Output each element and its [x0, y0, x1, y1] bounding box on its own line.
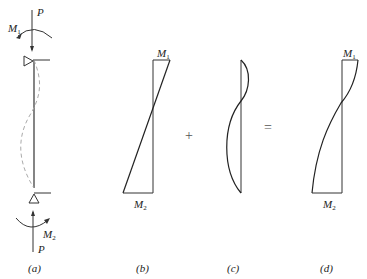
label-m1-d: M1: [342, 47, 356, 61]
moment-line-b: [123, 60, 170, 193]
moment-curve-d: [312, 60, 358, 193]
moment-label-top: M1: [7, 22, 21, 36]
label-m1-b: M1: [156, 47, 170, 61]
load-arrowhead-top: [30, 46, 34, 52]
caption-a: (a): [28, 262, 41, 275]
panel-b: M1 M2 (b): [123, 47, 170, 275]
load-label-bottom: P: [37, 243, 45, 255]
label-m2-b: M2: [133, 198, 147, 212]
plus-operator: +: [185, 128, 193, 143]
moment-arc-top: [18, 29, 52, 38]
pin-support-bottom: [29, 194, 39, 203]
moment-arrowhead-bottom: [44, 218, 50, 224]
load-label-top: P: [36, 6, 44, 18]
caption-d: (d): [320, 262, 333, 275]
moment-arc-bottom: [16, 218, 48, 227]
moment-superposition-diagram: P M1 P M2 (a) M1 M2 (b) +: [0, 0, 367, 279]
panel-c: (c): [227, 60, 249, 275]
moment-label-bottom: M2: [42, 228, 56, 242]
caption-b: (b): [136, 262, 149, 275]
equals-operator: =: [264, 120, 272, 135]
moment-curve-c: [227, 60, 249, 193]
panel-a: P M1 P M2 (a): [7, 6, 56, 275]
caption-c: (c): [227, 262, 240, 275]
pin-support-top: [24, 56, 33, 66]
panel-d: M1 M2 (d): [312, 47, 358, 275]
label-m2-d: M2: [322, 198, 336, 212]
load-arrowhead-bottom: [31, 210, 35, 216]
buckled-shape: [21, 60, 40, 188]
